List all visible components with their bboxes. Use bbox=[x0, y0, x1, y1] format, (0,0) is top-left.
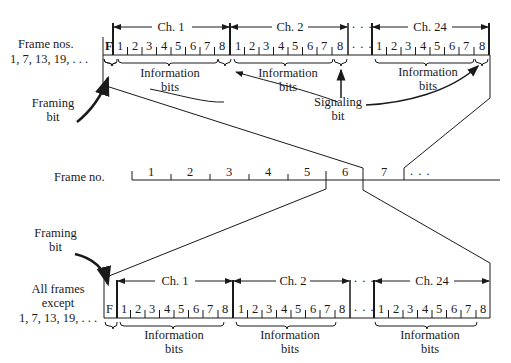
bottom-ch24-label: Ch. 24 bbox=[409, 274, 455, 288]
bottom-ch2-label: Ch. 2 bbox=[273, 274, 313, 288]
top-ch1-info-label: Information bits bbox=[130, 66, 210, 94]
bottom-ch2-info-label: Information bits bbox=[250, 328, 330, 356]
top-framing-bit: F bbox=[105, 39, 113, 53]
bottom-ch1-label: Ch. 1 bbox=[155, 274, 195, 288]
bottom-ellipsis-channels: . . . bbox=[354, 271, 375, 285]
expand-line-right-bottom bbox=[363, 190, 490, 263]
top-ch2-info-label: Information bits bbox=[248, 66, 328, 94]
timeline-label: Frame no. bbox=[54, 170, 105, 184]
bottom-ch1-info-label: Information bits bbox=[134, 328, 214, 356]
bottom-ellipsis-bits: . . . bbox=[354, 300, 375, 314]
bottom-frame-label: All frames except bbox=[14, 282, 102, 310]
bottom-framing-bit-label: Framing bit bbox=[28, 226, 83, 254]
bottom-framing-arrow bbox=[75, 254, 108, 284]
top-ch2-ticks bbox=[245, 47, 333, 55]
top-framing-bit-label: Framing bit bbox=[28, 96, 78, 124]
top-ellipsis-channels: . . . bbox=[352, 17, 373, 31]
bottom-ch24-info-label: Information bits bbox=[390, 328, 470, 356]
top-ch24-label: Ch. 24 bbox=[407, 20, 453, 34]
top-ch24-ticks bbox=[387, 47, 475, 55]
top-ellipsis-bits: . . . bbox=[352, 37, 373, 51]
top-frame-numbers: 1, 7, 13, 19, . . . bbox=[10, 52, 88, 66]
top-ch1-label: Ch. 1 bbox=[150, 20, 192, 34]
top-ch24-info-label: Information bits bbox=[388, 65, 468, 93]
bottom-framing-bit: F bbox=[106, 302, 113, 316]
top-ch2-label: Ch. 2 bbox=[270, 20, 310, 34]
expand-line-right-top bbox=[404, 98, 490, 168]
expand-line-left-bottom bbox=[104, 189, 326, 278]
timeline-ellipsis: . . . bbox=[410, 164, 431, 178]
top-frame-label: Frame nos. bbox=[18, 37, 74, 51]
signaling-bit-label: Signaling bit bbox=[308, 95, 368, 123]
bottom-frame-numbers: 1, 7, 13, 19, . . . bbox=[19, 311, 97, 325]
top-ch1-ticks bbox=[128, 47, 215, 55]
